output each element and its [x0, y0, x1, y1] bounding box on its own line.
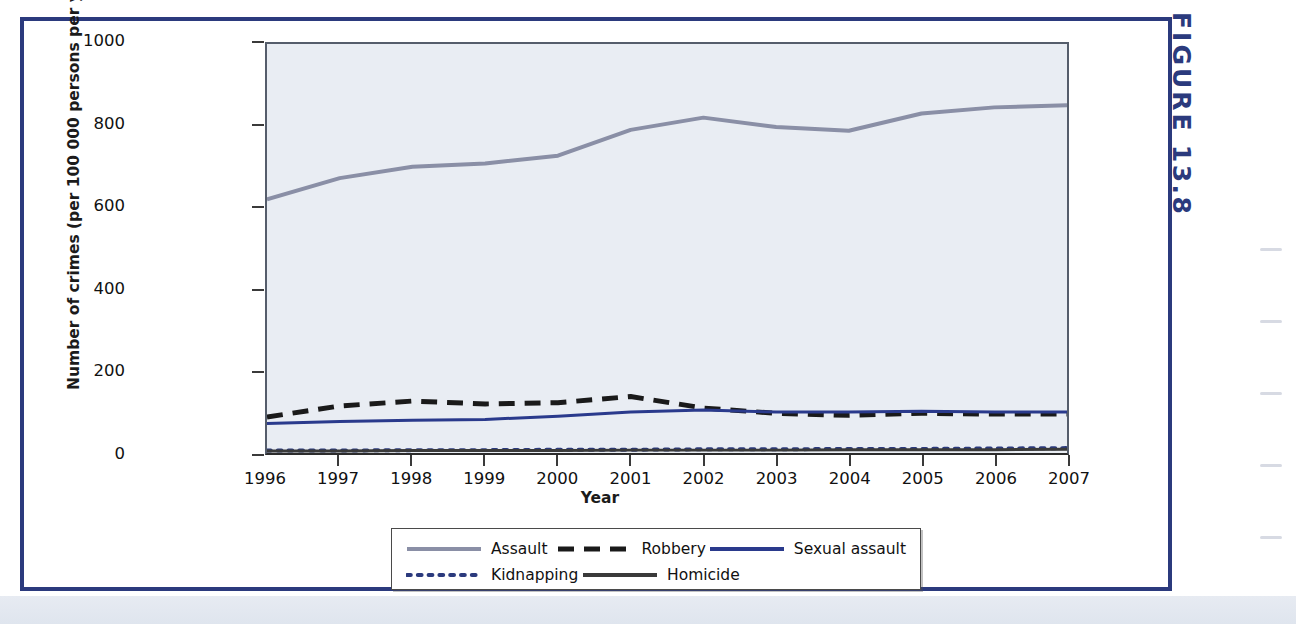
x-tick-label: 2007 — [1038, 469, 1100, 488]
x-tick-mark — [995, 455, 997, 466]
legend-swatch-assault — [406, 542, 482, 556]
y-tick-label: 1000 — [55, 31, 125, 50]
x-tick-label: 2005 — [892, 469, 954, 488]
x-tick-label: 1996 — [234, 469, 296, 488]
y-tick-mark — [252, 124, 264, 126]
x-tick-mark — [629, 455, 631, 466]
x-tick-label: 2002 — [673, 469, 735, 488]
series-line-robbery — [267, 397, 1067, 417]
y-tick-label: 600 — [55, 196, 125, 215]
x-tick-label: 2004 — [819, 469, 881, 488]
series-line-sexual-assault — [267, 410, 1067, 423]
scan-mark — [1260, 536, 1282, 539]
plot-area — [265, 42, 1069, 455]
y-tick-label: 400 — [55, 279, 125, 298]
series-lines — [267, 44, 1067, 453]
x-tick-mark — [922, 455, 924, 466]
x-tick-mark — [483, 455, 485, 466]
legend-swatch-robbery — [557, 542, 633, 556]
y-tick-label: 200 — [55, 361, 125, 380]
legend-label-sexual-assault: Sexual assault — [794, 540, 906, 558]
legend-label-kidnapping: Kidnapping — [491, 566, 578, 584]
scan-mark — [1260, 320, 1282, 323]
figure-frame: Number of crimes (per 100 000 persons pe… — [20, 17, 1172, 591]
x-tick-label: 1998 — [380, 469, 442, 488]
y-tick-mark — [252, 289, 264, 291]
page-bottom-strip — [0, 596, 1296, 624]
x-tick-mark — [337, 455, 339, 466]
y-tick-mark — [252, 206, 264, 208]
legend-item-homicide[interactable]: Homicide — [582, 566, 740, 584]
scan-mark — [1260, 464, 1282, 467]
x-axis-title: Year — [24, 489, 1176, 507]
y-tick-mark — [252, 41, 264, 43]
x-tick-label: 2006 — [965, 469, 1027, 488]
y-tick-mark — [252, 371, 264, 373]
legend-row-2: Kidnapping Homicide — [406, 562, 906, 588]
x-tick-label: 1997 — [307, 469, 369, 488]
x-tick-mark — [1068, 455, 1070, 466]
series-line-homicide — [267, 449, 1067, 451]
x-tick-mark — [410, 455, 412, 466]
legend-label-homicide: Homicide — [667, 566, 740, 584]
x-tick-label: 1999 — [453, 469, 515, 488]
legend-item-assault[interactable]: Assault — [406, 540, 557, 558]
y-tick-label: 800 — [55, 114, 125, 133]
legend-label-robbery: Robbery — [642, 540, 706, 558]
legend-swatch-kidnapping — [406, 568, 482, 582]
legend-swatch-sexual-assault — [709, 542, 785, 556]
x-tick-mark — [776, 455, 778, 466]
legend-row-1: Assault Robbery Sexual assault — [406, 536, 906, 562]
x-tick-mark — [556, 455, 558, 466]
x-tick-label: 2001 — [599, 469, 661, 488]
scan-mark — [1260, 248, 1282, 251]
y-tick-mark — [252, 454, 264, 456]
scan-mark — [1260, 392, 1282, 395]
chart-legend: Assault Robbery Sexual assault Kidnappin… — [391, 528, 921, 590]
line-chart: Number of crimes (per 100 000 persons pe… — [24, 21, 1176, 595]
x-tick-label: 2003 — [746, 469, 808, 488]
x-tick-label: 2000 — [526, 469, 588, 488]
legend-label-assault: Assault — [491, 540, 547, 558]
legend-item-sexual-assault[interactable]: Sexual assault — [709, 540, 906, 558]
x-tick-mark — [703, 455, 705, 466]
legend-swatch-homicide — [582, 568, 658, 582]
legend-item-robbery[interactable]: Robbery — [557, 540, 709, 558]
x-tick-mark — [849, 455, 851, 466]
page-canvas: FIGURE 13.8 Number of crimes (per 100 00… — [0, 0, 1296, 624]
series-line-assault — [267, 105, 1067, 199]
y-tick-label: 0 — [55, 444, 125, 463]
legend-item-kidnapping[interactable]: Kidnapping — [406, 566, 582, 584]
